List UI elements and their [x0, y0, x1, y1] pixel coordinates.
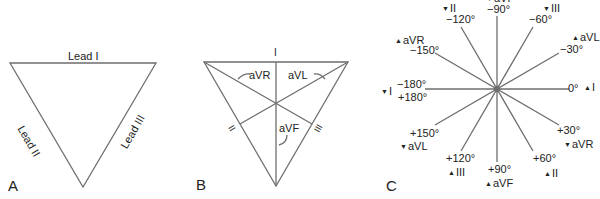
up-triangle-icon: ▲ — [584, 84, 591, 91]
lead-name: aVF — [493, 177, 513, 189]
lead-name: II — [552, 167, 558, 179]
lead-name: I — [592, 81, 595, 93]
lead-avr-negative: ▼aVR — [564, 139, 593, 150]
angle-plus120-label: +120° — [446, 153, 475, 164]
lead-i-label: Lead I — [68, 51, 99, 62]
lead-name: aVL — [408, 140, 428, 152]
up-triangle-icon: ▲ — [572, 34, 579, 41]
up-triangle-icon: ▲ — [395, 37, 402, 44]
down-triangle-icon: ▼ — [543, 5, 550, 12]
down-triangle-icon: ▼ — [486, 0, 493, 2]
lead-name: aVR — [572, 138, 593, 150]
avl-label: aVL — [288, 70, 308, 81]
lead-i-positive: ▲I — [584, 82, 595, 93]
lead-name: aVL — [580, 31, 600, 43]
up-triangle-icon: ▲ — [485, 180, 492, 187]
angle-plus30-label: +30° — [557, 125, 580, 136]
lead-name: aVR — [403, 34, 424, 46]
angle-0-label: 0° — [568, 83, 579, 94]
up-triangle-icon: ▲ — [448, 169, 455, 176]
angle-minus180-label: −180° — [397, 79, 426, 90]
lead-avl-negative: ▼aVL — [400, 141, 428, 152]
angle-plus60-label: +60° — [533, 153, 556, 164]
panel-a-letter: A — [8, 178, 18, 193]
lead-avf-negative: ▼aVF — [486, 0, 514, 4]
angle-minus120-label: −120° — [446, 14, 475, 25]
lead-name: II — [450, 2, 456, 14]
lead-i-negative: ▼I — [381, 86, 392, 97]
lead-name: III — [456, 166, 465, 178]
avr-label: aVR — [249, 70, 270, 81]
lead-name: aVF — [494, 0, 514, 4]
down-triangle-icon: ▼ — [564, 141, 571, 148]
lead-ii-negative: ▼II — [442, 3, 456, 14]
lead-name: I — [389, 85, 392, 97]
lead-avl-positive: ▲aVL — [572, 32, 600, 43]
angle-plus90-label: +90° — [488, 164, 511, 175]
panel-c-letter: C — [386, 178, 397, 193]
lead-avr-positive: ▲aVR — [395, 35, 424, 46]
lead-avf-positive: ▲aVF — [485, 178, 513, 189]
angle-minus30-label: −30° — [560, 44, 583, 55]
angle-minus90-label: −90° — [487, 4, 510, 15]
angle-plus150-label: +150° — [410, 128, 439, 139]
lead-name: III — [551, 2, 560, 14]
hexaxial-lines — [425, 16, 569, 162]
lead-iii-negative: ▼III — [543, 3, 560, 14]
hexaxial-reference-figure: Lead I Lead II Lead III A I aVR aVL aVF … — [0, 0, 600, 199]
lead-iii-positive: ▲III — [448, 167, 465, 178]
down-triangle-icon: ▼ — [400, 143, 407, 150]
up-triangle-icon: ▲ — [544, 170, 551, 177]
avf-label: aVF — [279, 123, 299, 134]
angle-minus60-label: −60° — [529, 14, 552, 25]
down-triangle-icon: ▼ — [381, 88, 388, 95]
panel-b-letter: B — [196, 177, 206, 192]
angle-plus180-label: +180° — [398, 92, 427, 103]
lead-i-marker: I — [274, 48, 277, 58]
down-triangle-icon: ▼ — [442, 5, 449, 12]
angle-minus150-label: −150° — [410, 45, 439, 56]
augmented-triangle — [204, 62, 348, 186]
lead-ii-positive: ▲II — [544, 168, 558, 179]
